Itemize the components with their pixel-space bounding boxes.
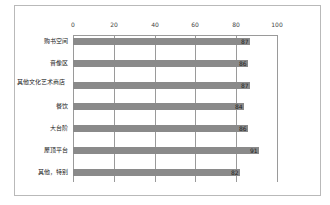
x-tick-label: 0 (71, 21, 75, 28)
x-tick-label: 40 (151, 21, 159, 28)
data-label: 82 (231, 169, 239, 176)
bar (73, 103, 244, 110)
category-label: 屋顶平台 (8, 146, 68, 154)
category-label: 其他，特别 (8, 168, 68, 176)
data-label: 91 (250, 147, 258, 154)
data-label: 86 (239, 125, 247, 132)
bar (73, 82, 250, 89)
data-label: 87 (241, 38, 249, 45)
category-label: 其他文化艺术商店 (14, 78, 68, 86)
x-tick-label: 100 (271, 21, 282, 28)
x-tick-label: 60 (191, 21, 199, 28)
category-label: 大台阶 (8, 124, 68, 132)
bar (73, 169, 240, 176)
bar (73, 125, 248, 132)
data-label: 84 (235, 103, 243, 110)
plot-top-border (73, 35, 278, 36)
data-label: 87 (241, 82, 249, 89)
bar (73, 38, 250, 45)
bar (73, 60, 248, 67)
category-label: 餐饮 (8, 102, 68, 110)
plot-right-border (277, 35, 278, 182)
x-tick-label: 80 (232, 21, 240, 28)
category-label: 购书空间 (8, 37, 68, 45)
data-label: 86 (239, 60, 247, 67)
bar (73, 147, 259, 154)
x-tick-label: 20 (110, 21, 118, 28)
category-label: 音像区 (8, 59, 68, 67)
